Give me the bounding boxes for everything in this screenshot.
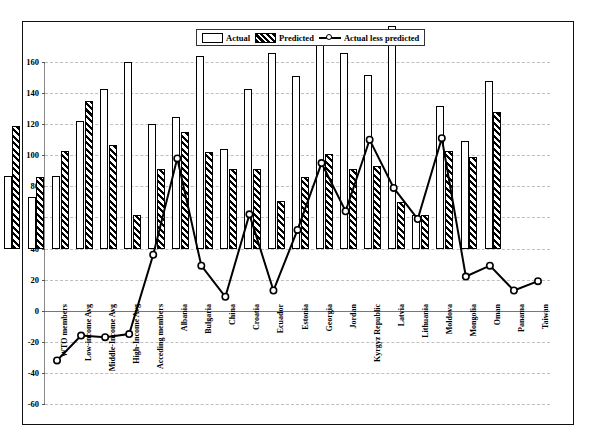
legend-label-predicted: Predicted — [279, 33, 314, 43]
bar-predicted — [36, 177, 44, 249]
x-axis-label: Latvia — [397, 304, 406, 326]
hatched-rect-icon — [255, 33, 276, 43]
line-marker — [198, 262, 204, 268]
line-marker — [366, 137, 372, 143]
x-axis-label: Mongolia — [469, 304, 478, 336]
line-marker — [487, 262, 493, 268]
legend-item-actual-less-predicted: Actual less predicted — [319, 33, 419, 43]
x-axis-label: Lithuania — [421, 304, 430, 338]
x-axis-label: China — [228, 304, 237, 325]
x-axis-label: High-Income Avg — [132, 304, 141, 364]
y-axis-tick-label: -60 — [13, 399, 39, 409]
x-axis-label: Low-income Avg — [84, 304, 93, 361]
line-marker — [174, 155, 180, 161]
y-axis-tick-label: -40 — [13, 368, 39, 378]
line-marker — [535, 278, 541, 284]
legend-label-actual: Actual — [226, 33, 250, 43]
line-marker — [222, 294, 228, 300]
line-marker — [390, 185, 396, 191]
line-marker — [511, 287, 517, 293]
bar-actual — [28, 197, 36, 248]
bar-actual — [4, 176, 12, 249]
x-axis-label: Middle-Income Avg — [108, 304, 117, 371]
line-marker — [415, 216, 421, 222]
chart-legend: Actual Predicted Actual less predicted — [196, 29, 425, 46]
x-axis-label: Georgia — [325, 304, 334, 332]
legend-item-predicted: Predicted — [255, 33, 314, 43]
x-axis-label: Ecuador — [276, 304, 285, 333]
line-marker — [294, 227, 300, 233]
legend-item-actual: Actual — [202, 33, 250, 43]
x-axis-label: Jordan — [349, 304, 358, 328]
line-marker — [150, 252, 156, 258]
line-marker — [439, 135, 445, 141]
legend-label-actual-less-predicted: Actual less predicted — [344, 33, 419, 43]
chart-screenshot: Actual Predicted Actual less predicted 1… — [0, 0, 599, 448]
line-marker — [270, 287, 276, 293]
line-marker — [318, 160, 324, 166]
x-axis-label: Oman — [493, 304, 502, 325]
x-axis-label: Moldova — [445, 304, 454, 334]
x-axis-label: Kyrgyz Republic — [373, 304, 382, 362]
x-axis-label: WTO members — [60, 304, 69, 357]
x-axis-label: Bulgaria — [204, 304, 213, 334]
x-axis-label: Acceding members — [156, 304, 165, 369]
bar-predicted — [12, 126, 20, 249]
line-marker-icon — [319, 34, 341, 42]
line-marker — [246, 211, 252, 217]
x-axis-label: Panama — [517, 304, 526, 332]
line-marker — [463, 273, 469, 279]
x-axis-category-labels: WTO membersLow-income AvgMiddle-Income A… — [45, 304, 550, 424]
x-axis-label: Estonia — [301, 304, 310, 330]
line-marker — [342, 208, 348, 214]
hollow-rect-icon — [202, 33, 223, 43]
x-axis-label: Taiwan — [541, 304, 550, 329]
x-axis-label: Albania — [180, 304, 189, 331]
x-axis-label: Croatia — [252, 304, 261, 330]
